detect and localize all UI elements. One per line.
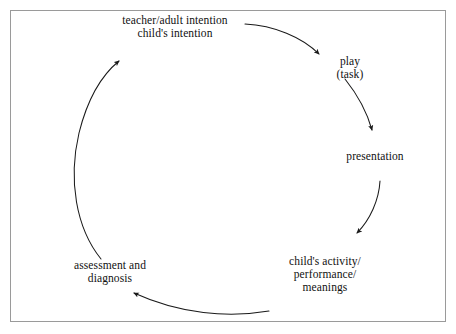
node-label-child-activity: child's activity/ performance/ meanings <box>265 255 385 294</box>
cycle-diagram-figure: teacher/adult intention child's intentio… <box>0 0 456 334</box>
arrow-intention-to-play <box>245 24 319 54</box>
node-label-play-line-1: play <box>322 55 378 68</box>
arrow-play-to-presentation <box>345 79 372 130</box>
node-label-child-activity-line-2: performance/ <box>265 268 385 281</box>
node-label-assessment-line-2: diagnosis <box>55 272 165 285</box>
arrow-child-activity-to-assessment <box>134 293 269 314</box>
node-label-play: play (task) <box>322 55 378 81</box>
node-label-presentation: presentation <box>330 150 420 163</box>
node-label-assessment-line-1: assessment and <box>55 259 165 272</box>
arrow-assessment-to-intention <box>74 61 119 259</box>
node-label-child-activity-line-3: meanings <box>265 281 385 294</box>
node-label-intention-line-2: child's intention <box>105 27 245 40</box>
node-label-play-line-2: (task) <box>322 68 378 81</box>
node-label-intention: teacher/adult intention child's intentio… <box>105 14 245 40</box>
node-label-child-activity-line-1: child's activity/ <box>265 255 385 268</box>
arrow-presentation-to-child-activity <box>357 181 380 233</box>
node-label-assessment: assessment and diagnosis <box>55 259 165 285</box>
node-label-intention-line-1: teacher/adult intention <box>105 14 245 27</box>
node-label-presentation-line-1: presentation <box>330 150 420 163</box>
